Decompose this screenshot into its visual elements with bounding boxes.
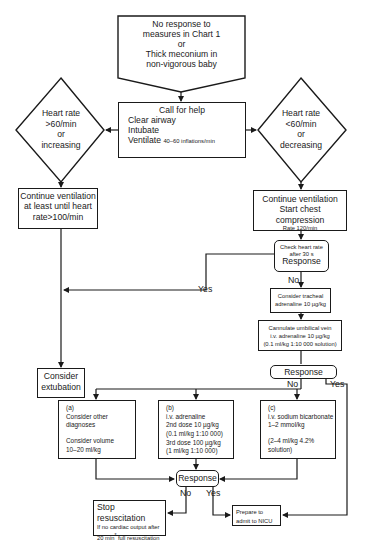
option-a-line-4: 10–20 ml/kg <box>66 446 135 455</box>
continue-right-line-2: Start chest compression <box>254 204 346 225</box>
option-c-line-3: (2–4 ml/kg 4.2% <box>268 437 335 446</box>
option-b-line-5: (1 ml/kg 1:10 000) <box>166 447 233 456</box>
prepare-line-1: Prepare to <box>236 508 280 517</box>
option-a-line-1: Consider other <box>66 413 135 422</box>
cannulate-line-3: (0.1 ml/kg 1:10 000 solution) <box>259 340 341 348</box>
option-a-line-2: diagnoses <box>66 421 135 430</box>
option-c-box: (c) i.v. sodium bicarbonate 1–2 mmol/kg … <box>260 400 336 459</box>
cannulate-line-2: i.v. adrenaline 10 µg/kg <box>259 332 341 340</box>
consider-extubation-box: Consider extubation <box>37 368 85 398</box>
extubation-line-1: Consider <box>38 371 84 382</box>
start-line-5: non-vigorous baby <box>120 60 243 70</box>
check-hr-response: Response <box>275 257 328 267</box>
tracheal-line-2: adrenaline 10 µg/kg <box>271 300 330 308</box>
option-c-line-1: i.v. sodium bicarbonate <box>268 413 335 422</box>
label-no-mid: No <box>287 379 298 389</box>
tracheal-adrenaline-box: Consider tracheal adrenaline 10 µg/kg <box>270 288 331 313</box>
decision-right-line-3: or <box>266 129 336 140</box>
continue-right-line-1: Continue ventilation <box>254 194 346 204</box>
tracheal-line-1: Consider tracheal <box>271 292 330 300</box>
decision-right-line-4: decreasing <box>266 140 336 151</box>
ventilate-rate: 40–60 inflations/min <box>163 138 215 144</box>
option-a-line-3: Consider volume <box>66 437 135 446</box>
continue-left-line-2: at least until heart <box>19 201 97 211</box>
label-no-bottom: No <box>180 488 191 498</box>
option-b-line-4: 3rd dose 100 µg/kg <box>166 439 233 448</box>
option-b-line-2: 2nd dose 10 µg/kg <box>166 421 233 430</box>
continue-left-line-3: rate>100/min <box>19 212 97 222</box>
continue-ventilation-left-box: Continue ventilation at least until hear… <box>18 188 98 229</box>
decision-right: Heart rate <60/min or decreasing <box>266 108 336 151</box>
option-c-line-4: solution) <box>268 446 335 455</box>
prepare-line-2: admit to NICU <box>236 517 280 526</box>
label-no-check: No <box>288 275 299 285</box>
option-c-tag: (c) <box>268 404 335 413</box>
call-for-help-box: Call for help Clear airway Intubate Vent… <box>118 102 246 158</box>
flowchart-connectors <box>0 0 365 545</box>
check-heart-rate-box: Check heart rate after 30 s Response <box>274 240 329 272</box>
option-b-tag: (b) <box>166 404 233 413</box>
ventilate: Ventilate <box>128 135 161 145</box>
response-mid-box: Response <box>270 365 337 379</box>
continue-left-line-1: Continue ventilation <box>19 191 97 201</box>
stop-line-1: If no cardiac output after <box>97 524 165 532</box>
response-bottom-box: Response <box>176 470 219 487</box>
option-b-box: (b) i.v. adrenaline 2nd dose 10 µg/kg (0… <box>158 400 234 459</box>
cannulate-box: Cannulate umbilical vein i.v. adrenaline… <box>258 320 342 351</box>
response-bottom-label: Response <box>178 473 217 483</box>
start-node: No response to measures in Chart 1 or Th… <box>120 20 243 69</box>
option-a-tag: (a) <box>66 404 135 413</box>
cannulate-line-1: Cannulate umbilical vein <box>259 324 341 332</box>
decision-left-line-3: or <box>26 129 96 140</box>
label-yes-mid: Yes <box>330 379 344 389</box>
decision-left-line-1: Heart rate <box>26 108 96 119</box>
decision-right-line-2: <60/min <box>266 119 336 130</box>
decision-left-line-4: increasing <box>26 140 96 151</box>
stop-line-2b: full resuscitation <box>116 535 159 541</box>
check-hr-line-1: Check heart rate <box>275 244 328 251</box>
response-mid-label: Response <box>284 367 323 377</box>
stop-resuscitation-box: Stop resuscitation If no cardiac output … <box>93 500 166 536</box>
continue-ventilation-right-box: Continue ventilation Start chest compres… <box>253 190 347 231</box>
decision-right-line-1: Heart rate <box>266 108 336 119</box>
decision-left-line-2: >60/min <box>26 119 96 130</box>
label-yes-bottom: Yes <box>206 488 220 498</box>
continue-right-rate: Rate 120/min <box>254 225 346 232</box>
stop-title: Stop resuscitation <box>97 502 165 524</box>
label-yes-check: Yes <box>198 284 212 294</box>
option-b-line-1: i.v. adrenaline <box>166 413 233 422</box>
stop-line-2a: 20 min <box>97 535 114 541</box>
option-b-line-3: (0.1 ml/kg 1:10 000) <box>166 430 233 439</box>
option-a-box: (a) Consider other diagnoses Consider vo… <box>58 400 136 459</box>
decision-left: Heart rate >60/min or increasing <box>26 108 96 151</box>
option-c-line-2: 1–2 mmol/kg <box>268 421 335 430</box>
extubation-line-2: extubation <box>38 382 84 393</box>
prepare-nicu-box: Prepare to admit to NICU <box>232 505 281 526</box>
